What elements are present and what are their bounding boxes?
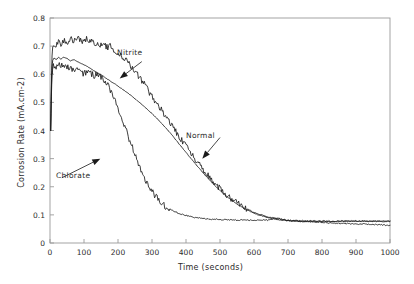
x-tick-label: 400 [179, 248, 193, 257]
x-tick-label: 700 [281, 248, 295, 257]
x-tick-label: 200 [111, 248, 125, 257]
y-tick-label: 0.4 [20, 126, 45, 135]
y-tick-label: 0.3 [20, 154, 45, 163]
y-tick-label: 0.6 [20, 70, 45, 79]
x-tick-label: 300 [145, 248, 159, 257]
arrow-normal [202, 138, 220, 159]
x-tick-label: 100 [77, 248, 91, 257]
x-tick-label: 500 [213, 248, 227, 257]
annotation-label-chlorate: Chlorate [56, 171, 90, 180]
x-tick-label: 800 [315, 248, 329, 257]
series-line-chlorate [51, 63, 390, 222]
data-series-layer [51, 36, 390, 225]
corrosion-rate-line-chart [0, 0, 414, 284]
annotation-label-normal: Normal [186, 131, 215, 140]
y-tick-label: 0.1 [20, 210, 45, 219]
y-tick-label: 0.7 [20, 42, 45, 51]
y-tick-label: 0 [20, 239, 45, 248]
y-tick-label: 0.5 [20, 98, 45, 107]
x-tick-label: 1000 [380, 248, 399, 257]
x-tick-label: 900 [349, 248, 363, 257]
axis-tick-marks [50, 18, 390, 243]
y-tick-label: 0.2 [20, 182, 45, 191]
chart-figure: Nitrite Normal Chlorate Time (seconds) C… [0, 0, 414, 284]
series-line-nitrite [51, 36, 390, 225]
y-tick-label: 0.8 [20, 14, 45, 23]
annotation-label-nitrite: Nitrite [117, 48, 142, 57]
plot-frame [50, 18, 390, 243]
x-tick-label: 0 [48, 248, 53, 257]
series-line-normal [51, 57, 390, 222]
x-axis-title: Time (seconds) [178, 263, 243, 272]
x-tick-label: 600 [247, 248, 261, 257]
